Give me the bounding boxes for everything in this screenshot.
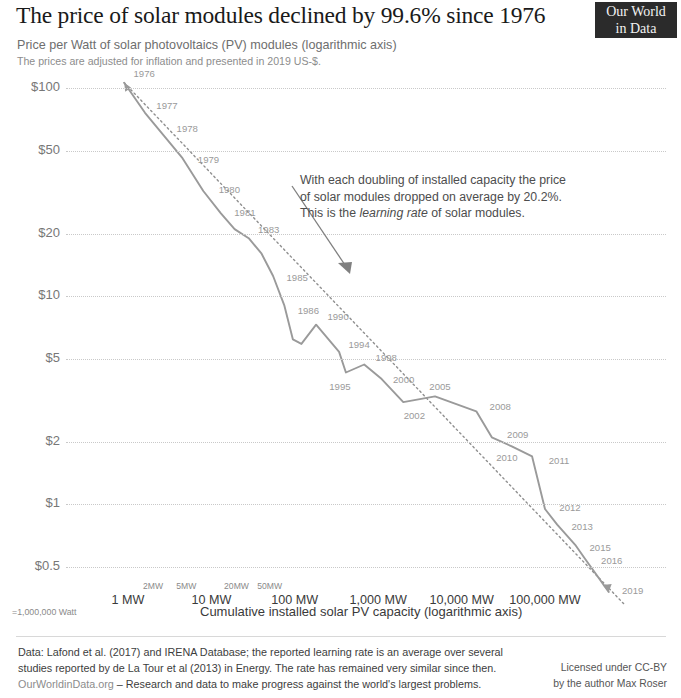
learning-rate-annotation: With each doubling of installed capacity… bbox=[300, 172, 610, 222]
x-axis-tick-label: 1 MW bbox=[112, 593, 145, 607]
year-point-label: 1986 bbox=[298, 304, 319, 315]
year-point-label: 2012 bbox=[559, 502, 580, 513]
annotation-line-1: With each doubling of installed capacity… bbox=[300, 172, 610, 189]
year-point-label: 1994 bbox=[348, 338, 369, 349]
gridline-y bbox=[66, 359, 666, 360]
year-point-label: 1983 bbox=[258, 224, 279, 235]
year-point-label: 1976 bbox=[134, 67, 155, 78]
gridline-y bbox=[66, 88, 666, 89]
year-point-label: 2011 bbox=[549, 455, 570, 466]
y-axis-tick-label: $1 bbox=[0, 495, 60, 510]
year-point-label: 1981 bbox=[234, 207, 255, 218]
footer-divider bbox=[16, 636, 666, 637]
y-axis-tick-label: $2 bbox=[0, 433, 60, 448]
source-line-3-rest: – Research and data to make progress aga… bbox=[114, 678, 482, 690]
y-axis-tick-label: $100 bbox=[0, 79, 60, 94]
year-point-label: 1990 bbox=[327, 310, 348, 321]
x-axis-minor-tick-label: 2MW bbox=[143, 581, 163, 591]
x-axis-unit-note: =1,000,000 Watt bbox=[12, 607, 76, 617]
annotation-emphasis: learning rate bbox=[359, 206, 427, 220]
x-axis-minor-tick-label: 20MW bbox=[224, 581, 249, 591]
annotation-line-3-pre: This is the bbox=[300, 206, 359, 220]
license-line-2: by the author Max Roser bbox=[553, 678, 667, 689]
year-point-label: 2010 bbox=[496, 452, 517, 463]
year-point-label: 2013 bbox=[572, 520, 593, 531]
source-line-2: studies reported by de La Tour et al (20… bbox=[18, 662, 496, 674]
year-point-label: 1979 bbox=[198, 154, 219, 165]
owid-link[interactable]: OurWorldinData.org bbox=[18, 678, 114, 690]
gridline-y bbox=[66, 567, 666, 568]
y-axis-tick-label: $0.5 bbox=[0, 558, 60, 573]
year-point-label: 2015 bbox=[589, 541, 610, 552]
x-axis-minor-tick-label: 50MW bbox=[257, 581, 282, 591]
year-point-label: 2016 bbox=[601, 555, 622, 566]
y-axis-tick-label: $5 bbox=[0, 350, 60, 365]
x-axis-title: Cumulative installed solar PV capacity (… bbox=[200, 604, 522, 619]
license-line-1: Licensed under CC-BY bbox=[561, 662, 667, 673]
y-axis-tick-label: $50 bbox=[0, 142, 60, 157]
year-point-label: 2002 bbox=[404, 410, 425, 421]
source-line-3: OurWorldinData.org – Research and data t… bbox=[18, 678, 481, 690]
gridline-y bbox=[66, 442, 666, 443]
y-axis-tick-label: $10 bbox=[0, 287, 60, 302]
annotation-line-3: This is the learning rate of solar modul… bbox=[300, 205, 610, 222]
source-line-1: Data: Lafond et al. (2017) and IRENA Dat… bbox=[18, 646, 503, 658]
year-point-label: 1995 bbox=[329, 380, 350, 391]
gridline-y bbox=[66, 234, 666, 235]
gridline-y bbox=[66, 296, 666, 297]
annotation-line-2: of solar modules dropped on average by 2… bbox=[300, 189, 610, 206]
year-point-label: 2019 bbox=[622, 584, 643, 595]
year-point-label: 2005 bbox=[429, 381, 450, 392]
year-point-label: 2000 bbox=[393, 374, 414, 385]
annotation-arrow-head bbox=[338, 262, 352, 274]
year-point-label: 2009 bbox=[507, 429, 528, 440]
year-point-label: 1977 bbox=[156, 99, 177, 110]
year-point-label: 1998 bbox=[376, 352, 397, 363]
year-point-label: 1978 bbox=[177, 123, 198, 134]
year-point-label: 1985 bbox=[286, 272, 307, 283]
x-axis-minor-tick-label: 5MW bbox=[176, 581, 196, 591]
year-point-label: 2008 bbox=[490, 401, 511, 412]
chart-plot-area: $100$50$20$10$5$2$1$0.5 1 MW10 MW100 MW1… bbox=[0, 0, 681, 698]
gridline-y bbox=[66, 151, 666, 152]
year-point-label: 1980 bbox=[219, 184, 240, 195]
y-axis-tick-label: $20 bbox=[0, 225, 60, 240]
annotation-line-3-post: of solar modules. bbox=[428, 206, 525, 220]
